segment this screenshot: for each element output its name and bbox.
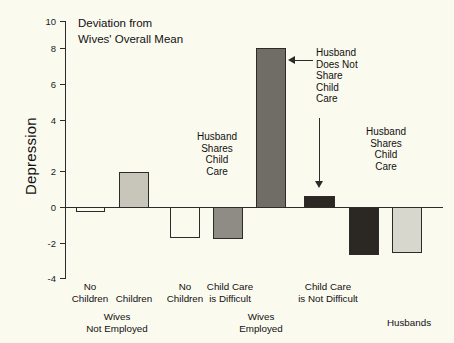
- y-tick-label-0: 0: [28, 203, 56, 213]
- chart-note-line1: Deviation from: [78, 16, 152, 30]
- annotation-arrow-shares-right-icon: [315, 181, 323, 188]
- annotation-husband-does-not-share: Husband Does Not Share Child Care: [316, 47, 396, 105]
- y-tick-label-6: 6: [28, 80, 56, 90]
- y-tick-label--2: -2: [28, 239, 56, 249]
- y-tick-4: [60, 120, 65, 121]
- bar-wives-not-employed-no-children: [76, 207, 105, 212]
- bar-wives-employed-no-children: [170, 207, 200, 238]
- group-label-husbands: Husbands: [374, 317, 444, 329]
- annotation-arrow-does-not-share-icon: [288, 56, 295, 64]
- y-tick-label-8: 8: [28, 44, 56, 54]
- y-axis-title: Depression: [22, 117, 39, 195]
- bar-wives-not-employed-children: [119, 172, 149, 208]
- category-label-child-care-not-difficult: Child Care is Not Difficult: [276, 281, 380, 305]
- bar-chart: Depression 10 8 6 4 2 0 -2 -4 Deviation …: [0, 0, 454, 343]
- y-tick-6: [60, 84, 65, 85]
- y-tick-label-2: 2: [28, 167, 56, 177]
- category-label-child-care-difficult: Child Care is Difficult: [186, 281, 274, 305]
- y-tick--2: [60, 243, 65, 244]
- annotation-husband-shares-right: Husband Shares Child Care: [355, 126, 417, 172]
- annotation-leader-shares-right: [319, 118, 320, 181]
- y-tick-10: [60, 21, 65, 22]
- bar-wives-employed-difficult-shares: [213, 207, 243, 239]
- group-label-wives-not-employed: Wives Not Employed: [62, 311, 172, 335]
- y-axis-line: [65, 21, 66, 279]
- y-tick-label-10: 10: [28, 17, 56, 27]
- bar-husbands: [392, 207, 422, 253]
- chart-note-line2: Wives' Overall Mean: [78, 32, 183, 46]
- group-label-wives-employed: Wives Employed: [216, 311, 306, 335]
- annotation-leader-does-not-share: [295, 60, 313, 61]
- annotation-husband-shares-left: Husband Shares Child Care: [186, 131, 248, 177]
- bar-wives-employed-not-difficult-not-shares: [304, 196, 335, 208]
- bar-wives-employed-difficult-not-shares: [256, 48, 286, 208]
- bar-wives-employed-not-difficult-shares: [349, 207, 379, 255]
- y-tick--4: [60, 278, 65, 279]
- y-tick-label--4: -4: [28, 274, 56, 284]
- y-tick-label-4: 4: [28, 116, 56, 126]
- y-tick-2: [60, 171, 65, 172]
- y-tick-8: [60, 48, 65, 49]
